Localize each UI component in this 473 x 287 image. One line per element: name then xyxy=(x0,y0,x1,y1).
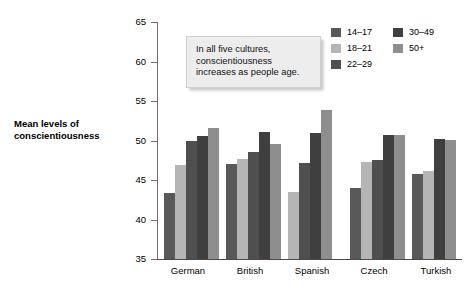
y-tick-label: 65 xyxy=(122,17,146,27)
y-tick-label: 45 xyxy=(122,175,146,185)
legend-label: 22–29 xyxy=(347,59,372,69)
bar xyxy=(434,139,445,259)
annotation-callout: In all five cultures, conscientiousness … xyxy=(186,36,321,88)
x-axis-label: British xyxy=(218,265,282,276)
x-axis-label: German xyxy=(156,265,220,276)
x-axis-line xyxy=(157,259,462,260)
x-axis-label: Spanish xyxy=(280,265,344,276)
callout-line-2: conscientiousness xyxy=(196,56,312,68)
bar xyxy=(197,136,208,259)
y-tick xyxy=(151,180,157,181)
y-axis-title: Mean levels of conscientiousness xyxy=(14,118,136,142)
legend-swatch-icon xyxy=(331,44,341,53)
bar-group xyxy=(412,22,472,259)
bar xyxy=(310,133,321,259)
y-tick xyxy=(151,259,157,260)
bar xyxy=(270,144,281,259)
bar xyxy=(237,159,248,259)
bar xyxy=(445,140,456,259)
legend-swatch-icon xyxy=(393,28,403,37)
bar xyxy=(299,163,310,259)
legend-swatch-icon xyxy=(331,28,341,37)
bar xyxy=(208,128,219,259)
bar xyxy=(321,110,332,259)
callout-line-3: increases as people age. xyxy=(196,67,312,79)
bar xyxy=(248,152,259,259)
bar xyxy=(259,132,270,259)
bar-group xyxy=(350,22,410,259)
legend-label: 18–21 xyxy=(347,43,372,53)
chart-figure: Mean levels of conscientiousness 3540455… xyxy=(0,0,473,287)
y-tick-label: 35 xyxy=(122,254,146,264)
legend-label: 50+ xyxy=(409,43,424,53)
legend-swatch-icon xyxy=(393,44,403,53)
y-tick-label: 50 xyxy=(122,136,146,146)
y-axis-line xyxy=(157,22,158,259)
bar xyxy=(361,162,372,259)
y-tick xyxy=(151,101,157,102)
bar xyxy=(394,135,405,259)
bar xyxy=(226,164,237,259)
bar xyxy=(186,141,197,260)
y-tick xyxy=(151,62,157,63)
y-tick xyxy=(151,141,157,142)
bar xyxy=(372,160,383,259)
bar xyxy=(412,174,423,259)
legend-label: 14–17 xyxy=(347,27,372,37)
bar xyxy=(175,165,186,259)
y-tick xyxy=(151,220,157,221)
legend-swatch-icon xyxy=(331,60,341,69)
bar xyxy=(383,135,394,259)
bar xyxy=(288,192,299,259)
bar xyxy=(164,193,175,259)
y-tick-label: 40 xyxy=(122,215,146,225)
y-tick xyxy=(151,22,157,23)
y-tick-label: 60 xyxy=(122,57,146,67)
bar xyxy=(350,188,361,259)
x-axis-label: Turkish xyxy=(404,265,468,276)
bar xyxy=(423,171,434,259)
x-axis-label: Czech xyxy=(342,265,406,276)
callout-line-1: In all five cultures, xyxy=(196,44,312,56)
y-tick-label: 55 xyxy=(122,96,146,106)
legend-label: 30–49 xyxy=(409,27,434,37)
